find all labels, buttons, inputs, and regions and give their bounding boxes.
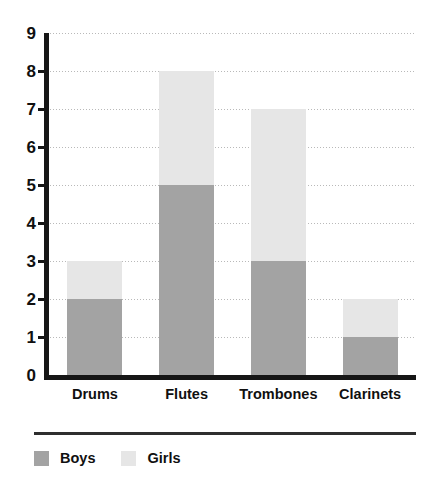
bar-slot [159,33,214,375]
y-axis-tick-mark [38,108,45,111]
legend-label: Girls [147,451,180,466]
bar-slot [251,33,306,375]
bar-slot [67,33,122,375]
y-axis-tick-mark [38,146,45,149]
y-axis-tick-label: 2 [2,291,36,308]
category-label-flutes: Flutes [141,385,233,403]
legend-label: Boys [60,451,95,466]
bar-segment-girls[interactable] [159,71,214,185]
plot-area: 0123456789 [0,0,439,400]
y-axis-tick-label: 4 [2,215,36,232]
legend-item-boys[interactable]: Boys [34,451,95,466]
y-axis-tick-label: 7 [2,101,36,118]
legend-divider [34,432,416,435]
category-label-clarinets: Clarinets [324,385,416,403]
y-axis-tick-mark [38,260,45,263]
legend-swatch-icon [121,451,136,466]
y-axis-tick-label: 3 [2,253,36,270]
y-axis-tick-label: 9 [2,25,36,42]
bar-segment-boys[interactable] [159,185,214,375]
y-axis-tick-mark [38,336,45,339]
bar-stack[interactable] [251,109,306,375]
category-label-trombones: Trombones [233,385,325,403]
stacked-bar-chart: 0123456789 DrumsFlutesTrombonesClarinets… [0,0,439,479]
bar-stack[interactable] [343,299,398,375]
y-axis-tick-label: 0 [2,367,36,384]
category-label-drums: Drums [49,385,141,403]
bar-segment-boys[interactable] [251,261,306,375]
category-axis-labels: DrumsFlutesTrombonesClarinets [49,385,416,409]
x-axis-line [44,375,416,380]
legend-item-girls[interactable]: Girls [121,451,180,466]
bar-segment-girls[interactable] [343,299,398,337]
y-axis-tick-mark [38,184,45,187]
y-axis-tick-mark [38,70,45,73]
bar-segment-boys[interactable] [67,299,122,375]
y-axis-tick-label: 8 [2,63,36,80]
bar-stack[interactable] [159,71,214,375]
y-axis-tick-label: 6 [2,139,36,156]
y-axis-tick-label: 1 [2,329,36,346]
y-axis-tick-mark [38,222,45,225]
bar-slot [343,33,398,375]
legend: BoysGirls [34,446,207,470]
y-axis-tick-mark [38,298,45,301]
bars-layer [49,33,416,375]
y-axis-tick-label: 5 [2,177,36,194]
bar-segment-girls[interactable] [251,109,306,261]
bar-segment-boys[interactable] [343,337,398,375]
legend-swatch-icon [34,451,49,466]
bar-segment-girls[interactable] [67,261,122,299]
bar-stack[interactable] [67,261,122,375]
